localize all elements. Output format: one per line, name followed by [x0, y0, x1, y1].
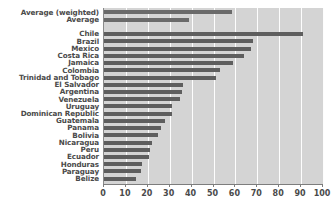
bar [104, 47, 251, 51]
category-label: Belize [75, 175, 99, 182]
bar [104, 162, 142, 166]
bar [104, 169, 141, 173]
bar [104, 76, 216, 80]
bar [104, 83, 183, 87]
x-axis-tick [191, 184, 192, 187]
x-axis-tick [322, 184, 323, 187]
plot-area [103, 8, 323, 184]
bar [104, 97, 180, 101]
x-axis-tick-label: 70 [251, 189, 262, 198]
x-axis-tick-label: 30 [163, 189, 174, 198]
bar [104, 10, 232, 14]
category-label-column: Average (weighted)AverageChileBrazilMexi… [0, 8, 101, 184]
bar [104, 177, 136, 181]
category-label: Average [66, 16, 99, 23]
x-axis-tick-label: 20 [141, 189, 152, 198]
x-axis-tick-label: 10 [119, 189, 130, 198]
x-axis-tick [256, 184, 257, 187]
bar-chart: Average (weighted)AverageChileBrazilMexi… [0, 0, 336, 211]
x-axis-tick [213, 184, 214, 187]
x-axis-tick-label: 0 [100, 189, 106, 198]
bar [104, 18, 189, 22]
bar [104, 112, 172, 116]
bar [104, 61, 233, 65]
gridline [323, 8, 324, 184]
x-axis-tick [278, 184, 279, 187]
bar [104, 104, 172, 108]
bar [104, 126, 161, 130]
bar [104, 90, 182, 94]
bar [104, 119, 165, 123]
x-axis-tick-label: 90 [295, 189, 306, 198]
x-axis-tick-label: 100 [314, 189, 331, 198]
x-axis-tick-label: 60 [229, 189, 240, 198]
x-axis-tick [103, 184, 104, 187]
x-axis-tick [300, 184, 301, 187]
bar [104, 39, 253, 43]
x-axis-tick [234, 184, 235, 187]
bar [104, 155, 149, 159]
x-axis-tick [125, 184, 126, 187]
x-axis-tick-label: 80 [273, 189, 284, 198]
x-axis-tick-label: 50 [207, 189, 218, 198]
bar [104, 32, 303, 36]
bar [104, 148, 150, 152]
bar [104, 68, 220, 72]
bar [104, 133, 158, 137]
bar [104, 54, 244, 58]
bar [104, 141, 152, 145]
x-axis-tick [169, 184, 170, 187]
x-axis-tick [147, 184, 148, 187]
x-axis-tick-label: 40 [185, 189, 196, 198]
